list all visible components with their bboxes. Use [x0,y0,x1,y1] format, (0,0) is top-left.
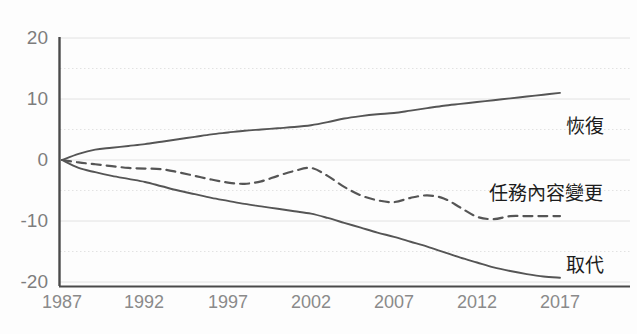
x-tick-label-2007: 2007 [359,292,429,313]
y-tick-label-10: 10 [0,88,48,110]
y-tick-label-minus10: -10 [0,210,48,232]
x-tick-label-2002: 2002 [276,292,346,313]
series-line-1 [62,160,560,219]
chart-container: 20 10 0 -10 -20 1987 1992 1997 2002 2007… [0,0,637,334]
x-tick-label-2012: 2012 [442,292,512,313]
series-label-task-change: 任務內容變更 [489,178,603,205]
chart-axes [59,37,630,287]
series-label-replacement: 取代 [566,250,604,277]
x-tick-label-1987: 1987 [27,292,97,313]
data-series-group [62,93,560,278]
y-tick-label-20: 20 [0,27,48,49]
x-tick-label-1997: 1997 [193,292,263,313]
x-tick-label-1992: 1992 [109,292,179,313]
x-tick-label-2017: 2017 [525,292,595,313]
gridlines [60,38,630,282]
series-line-0 [62,93,560,160]
y-tick-label-0: 0 [0,149,48,171]
chart-plot-area [0,0,637,334]
series-label-recovery: 恢復 [566,111,604,138]
y-tick-label-minus20: -20 [0,271,48,293]
